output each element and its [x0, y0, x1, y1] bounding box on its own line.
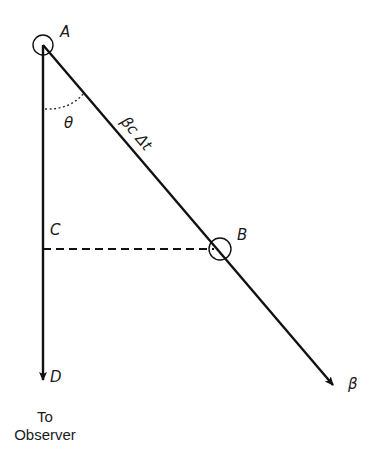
label-c: C: [50, 221, 61, 239]
label-theta: θ: [64, 114, 73, 132]
label-segment-ab: βc Δt: [116, 112, 156, 155]
label-b: B: [237, 226, 247, 244]
observer-caption-line2: Observer: [14, 426, 76, 443]
line-a-to-beta: [43, 45, 333, 385]
apparent-velocity-diagram: A θ βc Δt C B D β To Observer: [0, 0, 379, 472]
label-a: A: [59, 23, 70, 41]
label-beta: β: [347, 375, 358, 393]
observer-caption-line1: To: [37, 408, 53, 425]
angle-arc: [45, 93, 84, 109]
label-d: D: [50, 368, 62, 386]
